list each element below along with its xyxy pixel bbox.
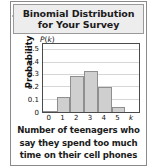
plot-area: Probability P(k) 00.10.20.30.40.5 012345…: [13, 35, 144, 123]
chart-title-line-1: Binomial Distribution: [23, 8, 135, 20]
y-axis-tick-label: 0.2: [28, 84, 39, 91]
x-axis-tick-label: 5: [115, 114, 119, 122]
x-axis-variable-label: k: [129, 114, 133, 122]
figure-container: Binomial Distribution for Your Survey Pr…: [10, 1, 147, 166]
x-axis-tick-label: 2: [74, 114, 78, 122]
bar: [112, 107, 126, 112]
y-axis-tick-label: 0.5: [28, 46, 39, 53]
x-axis-tick-label: 0: [47, 114, 51, 122]
chart-title-line-2: for Your Survey: [38, 19, 120, 31]
bar: [43, 111, 57, 113]
y-axis-tick-labels: 00.10.20.30.40.5: [13, 43, 40, 113]
y-axis-tick-label: 0: [35, 110, 39, 117]
gridline: [43, 62, 139, 63]
bar: [84, 71, 98, 112]
plot-axes: [42, 43, 140, 113]
caption-line-1: Number of teenagers who: [17, 124, 140, 137]
x-axis-tick-label: 4: [101, 114, 105, 122]
bar: [70, 76, 84, 112]
x-axis-tick-label: 1: [60, 114, 64, 122]
caption-line-2: say they spend too much: [20, 137, 138, 150]
gridline: [43, 49, 139, 50]
y-axis-tick-label: 0.1: [28, 97, 39, 104]
bar: [57, 97, 71, 112]
chart-caption: Number of teenagers who say they spend t…: [13, 123, 144, 165]
y-axis-tick-label: 0.3: [28, 71, 39, 78]
caption-line-3: time on their cell phones: [20, 149, 137, 162]
chart-title-band: Binomial Distribution for Your Survey: [13, 4, 144, 34]
bar: [98, 87, 112, 112]
y-axis-tick-label: 0.4: [28, 59, 39, 66]
x-axis-tick-label: 3: [88, 114, 92, 122]
